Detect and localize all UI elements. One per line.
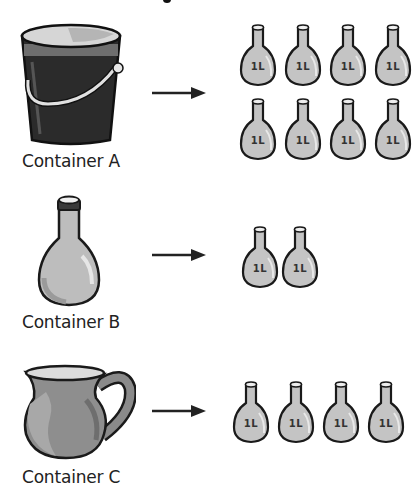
one-liter-bottle-icon: 1L [366,379,406,445]
bottle-label: 1L [283,61,323,72]
one-liter-bottle-icon: 1L [283,96,323,162]
container-a-label: Container A [22,151,120,171]
one-liter-bottle-icon: 1L [240,224,280,290]
bottle-label: 1L [373,135,413,146]
bottle-label: 1L [238,135,278,146]
one-liter-bottle-icon: 1L [283,22,323,88]
one-liter-bottle-icon: 1L [328,22,368,88]
bottle-label: 1L [321,418,361,429]
one-liter-bottle-icon: 1L [276,379,316,445]
bottle-label: 1L [283,135,323,146]
bottle-label: 1L [366,418,406,429]
bottle-label: 1L [328,61,368,72]
bottle-label: 1L [238,61,278,72]
bottle-label: 1L [240,263,280,274]
one-liter-bottle-icon: 1L [238,96,278,162]
bottle-label: 1L [328,135,368,146]
one-liter-bottle-icon: 1L [328,96,368,162]
cropped-title-fragment [163,0,171,3]
one-liter-bottle-icon: 1L [373,96,413,162]
bottle-icon [36,194,102,308]
bottle-label: 1L [373,61,413,72]
arrow-right-icon [151,404,207,418]
one-liter-bottle-icon: 1L [321,379,361,445]
one-liter-bottle-icon: 1L [280,224,320,290]
one-liter-bottle-icon: 1L [373,22,413,88]
arrow-right-icon [151,86,207,100]
one-liter-bottle-icon: 1L [238,22,278,88]
container-b-label: Container B [22,312,120,332]
bottle-label: 1L [280,263,320,274]
jug-icon [20,360,136,462]
bottle-label: 1L [276,418,316,429]
bucket-icon [18,22,124,148]
arrow-right-icon [151,248,207,262]
container-c-label: Container C [22,467,120,487]
bottle-label: 1L [231,418,271,429]
one-liter-bottle-icon: 1L [231,379,271,445]
